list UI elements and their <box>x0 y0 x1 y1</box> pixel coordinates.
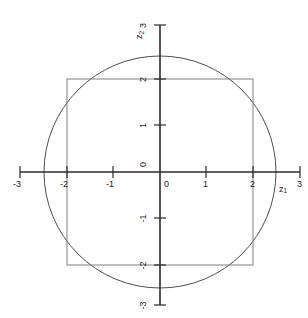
x-tick-label--1: -1 <box>106 180 114 189</box>
x-tick-label--2: -2 <box>60 180 68 189</box>
y-tick-label-0: 0 <box>139 162 148 167</box>
y-axis-title-base: z <box>134 35 144 40</box>
y-tick-label--3: -3 <box>139 301 148 309</box>
plot-canvas <box>0 0 308 318</box>
y-axis-title: z2 <box>135 31 145 39</box>
y-tick-label--2: -2 <box>139 261 148 269</box>
x-tick-label-3: 3 <box>297 180 302 189</box>
x-axis-title-subscript: 1 <box>284 187 288 194</box>
y-tick-label--1: -1 <box>139 214 148 222</box>
x-tick-label-2: 2 <box>250 180 255 189</box>
x-tick-label--3: -3 <box>13 180 21 189</box>
chart-figure: -3 -2 -1 0 1 2 3 3 2 1 0 -1 -2 -3 z1 z2 <box>0 0 308 318</box>
x-tick-label-1: 1 <box>203 180 208 189</box>
y-tick-label-1: 1 <box>139 123 148 128</box>
x-axis-title: z1 <box>279 185 287 195</box>
y-tick-label-2: 2 <box>139 77 148 82</box>
y-axis-title-subscript: 2 <box>138 31 145 35</box>
y-tick-label-3: 3 <box>139 23 148 28</box>
x-tick-label-0: 0 <box>164 180 169 189</box>
